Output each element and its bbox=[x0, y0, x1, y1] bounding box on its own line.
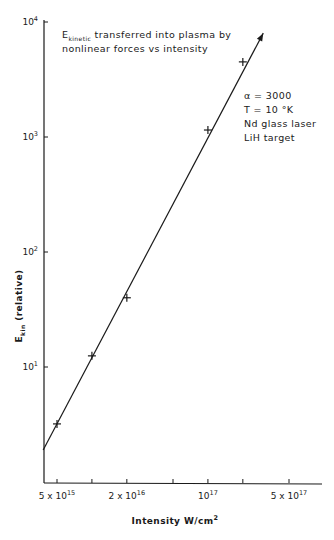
y-axis-label: Ekin (relative) bbox=[14, 270, 26, 343]
x-tick-label: 1017 bbox=[198, 489, 218, 501]
x-tick-label: 5 x 1015 bbox=[39, 489, 76, 501]
series bbox=[43, 33, 263, 450]
annotation-target: LiH target bbox=[244, 132, 295, 143]
chart: 5 x 10152 x 101610175 x 1017 10110210310… bbox=[0, 0, 334, 540]
fit-line bbox=[43, 33, 263, 450]
y-tick-label: 102 bbox=[22, 245, 38, 257]
data-point bbox=[239, 58, 247, 66]
chart-title-line2: nonlinear forces vs intensity bbox=[62, 43, 208, 54]
y-tick-label: 103 bbox=[22, 130, 38, 142]
x-ticks: 5 x 10152 x 101610175 x 1017 bbox=[39, 479, 308, 501]
arrowhead bbox=[257, 33, 263, 41]
x-axis-line bbox=[44, 483, 322, 484]
chart-title-line1: Ekinetic transferred into plasma by bbox=[62, 29, 231, 42]
annotation-alpha: α = 3000 bbox=[244, 90, 292, 101]
y-tick-label: 101 bbox=[22, 360, 38, 372]
annotation-temperature: T = 10 °K bbox=[243, 104, 294, 115]
x-tick-label: 2 x 1016 bbox=[109, 489, 146, 501]
x-tick-label: 5 x 1017 bbox=[271, 489, 308, 501]
annotation-block: α = 3000 T = 10 °K Nd glass laser LiH ta… bbox=[243, 90, 316, 143]
x-axis-label: Intensity W/cm2 bbox=[132, 514, 219, 526]
y-tick-label: 104 bbox=[22, 15, 38, 27]
annotation-laser: Nd glass laser bbox=[244, 118, 316, 129]
